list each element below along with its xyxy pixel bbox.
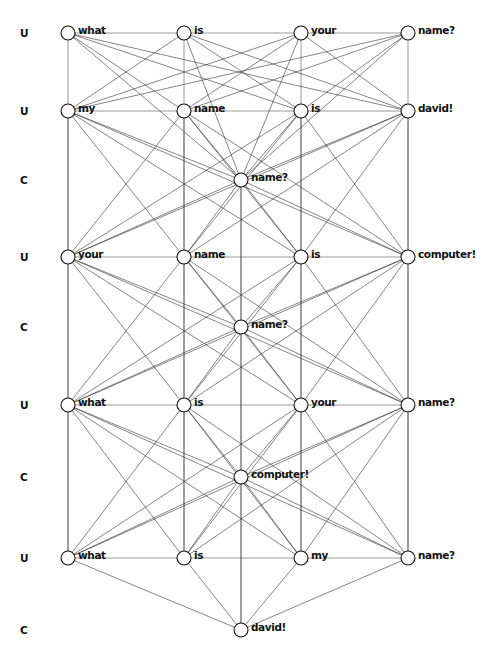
edge (68, 558, 241, 630)
edge (184, 180, 241, 257)
word-label: name? (251, 318, 288, 330)
row-type-label: U (20, 552, 29, 564)
word-node (177, 26, 191, 40)
row-type-label: U (20, 251, 29, 263)
word-node (61, 551, 75, 565)
word-node (294, 104, 308, 118)
edge (184, 558, 241, 630)
word-node (234, 173, 248, 187)
word-node (401, 250, 415, 264)
edge (241, 327, 301, 405)
word-label: is (194, 24, 203, 36)
word-label: my (78, 102, 96, 114)
word-node (177, 104, 191, 118)
nodes (61, 26, 415, 637)
word-node (401, 26, 415, 40)
word-label: david! (418, 102, 453, 114)
word-node (61, 26, 75, 40)
edge (241, 477, 301, 558)
row-type-label: C (20, 624, 28, 636)
edge (241, 558, 301, 630)
word-label: your (78, 248, 104, 260)
edge (241, 33, 408, 180)
word-node (234, 320, 248, 334)
word-node (294, 398, 308, 412)
word-label: what (78, 396, 106, 408)
edge (241, 33, 301, 180)
edge (68, 405, 241, 477)
word-label: what (78, 24, 106, 36)
word-node (294, 250, 308, 264)
word-node (61, 104, 75, 118)
row-type-label: C (20, 174, 28, 186)
word-node (61, 398, 75, 412)
word-node (234, 623, 248, 637)
word-node (234, 470, 248, 484)
word-label: name? (418, 549, 455, 561)
edge (68, 111, 241, 180)
row-type-label: U (20, 399, 29, 411)
word-node (177, 551, 191, 565)
word-label: is (311, 102, 320, 114)
edge (241, 405, 301, 477)
word-label: name? (418, 396, 455, 408)
word-lattice-diagram: Uwhatisyourname?Umynameisdavid!Cname?Uyo… (0, 0, 493, 661)
edge (241, 327, 408, 405)
word-label: your (311, 24, 337, 36)
row-type-label: U (20, 27, 29, 39)
row-type-label: C (20, 321, 28, 333)
word-label: computer! (251, 468, 309, 480)
word-label: is (194, 549, 203, 561)
edge (184, 477, 241, 558)
word-node (177, 250, 191, 264)
edge (184, 327, 241, 405)
word-node (401, 104, 415, 118)
row-type-label: U (20, 105, 29, 117)
word-node (401, 398, 415, 412)
word-label: your (311, 396, 337, 408)
word-node (177, 398, 191, 412)
word-node (401, 551, 415, 565)
word-node (294, 551, 308, 565)
word-label: name? (418, 24, 455, 36)
word-label: what (78, 549, 106, 561)
word-label: is (311, 248, 320, 260)
row-type-label: C (20, 471, 28, 483)
edge (241, 558, 408, 630)
edge (241, 180, 408, 257)
word-node (61, 250, 75, 264)
edge (241, 477, 408, 558)
word-node (294, 26, 308, 40)
edge (68, 257, 241, 327)
word-label: is (194, 396, 203, 408)
word-label: my (311, 549, 329, 561)
word-label: name (194, 102, 225, 114)
word-label: name (194, 248, 225, 260)
word-label: david! (251, 621, 286, 633)
word-label: computer! (418, 248, 476, 260)
edge (241, 180, 301, 257)
word-label: name? (251, 171, 288, 183)
